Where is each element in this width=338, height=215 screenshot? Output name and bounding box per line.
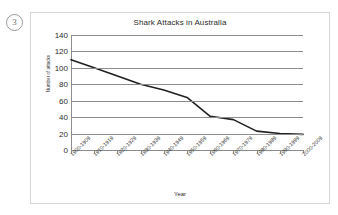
y-tick-label: 140 (55, 31, 68, 40)
y-tick-label: 20 (59, 129, 68, 138)
gridline (71, 51, 303, 52)
y-tick-label: 60 (59, 96, 68, 105)
gridline (71, 134, 303, 135)
gridline (71, 101, 303, 102)
series-polyline (71, 60, 303, 135)
x-axis-tick-labels: 1900-19091910-19191920-19291930-19391940… (71, 153, 303, 193)
chart-title: Shark Attacks in Australia (31, 18, 329, 27)
y-tick-label: 0 (64, 146, 68, 155)
question-number-marker: 3 (6, 14, 23, 31)
x-axis-title: Year (31, 191, 329, 197)
y-tick-label: 80 (59, 80, 68, 89)
gridline (71, 68, 303, 69)
gridline (71, 84, 303, 85)
chart-figure-frame: Shark Attacks in Australia Number of att… (30, 12, 330, 204)
plot-area (71, 35, 303, 150)
y-tick-label: 40 (59, 113, 68, 122)
y-tick-label: 100 (55, 63, 68, 72)
gridline (71, 117, 303, 118)
gridline (71, 35, 303, 36)
x-tick-label: 2000-2009 (301, 135, 323, 157)
y-tick-label: 120 (55, 47, 68, 56)
y-axis-tick-labels: 020406080100120140 (45, 35, 68, 150)
